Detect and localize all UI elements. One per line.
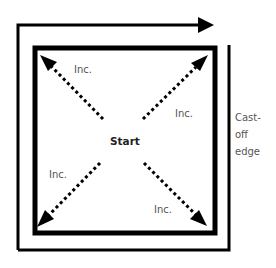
start-label: Start xyxy=(110,135,140,147)
edge-label-line-2: off xyxy=(235,126,261,143)
inc-label-top-right: Inc. xyxy=(175,108,193,120)
inc-label-bottom-right: Inc. xyxy=(154,204,172,216)
cast-off-edge-label: Cast- off edge xyxy=(235,109,261,160)
arrowhead-top-right-icon xyxy=(191,55,208,71)
edge-label-line-1: Cast- xyxy=(235,109,261,126)
arrowhead-top-left-icon xyxy=(40,55,57,71)
inc-label-bottom-left: Inc. xyxy=(49,169,67,181)
arrowhead-bottom-right-icon xyxy=(190,210,207,226)
inc-label-top-left: Inc. xyxy=(74,64,92,76)
edge-label-line-3: edge xyxy=(235,143,261,160)
direction-arrow-icon xyxy=(198,17,214,33)
arrowhead-bottom-left-icon xyxy=(37,210,54,227)
